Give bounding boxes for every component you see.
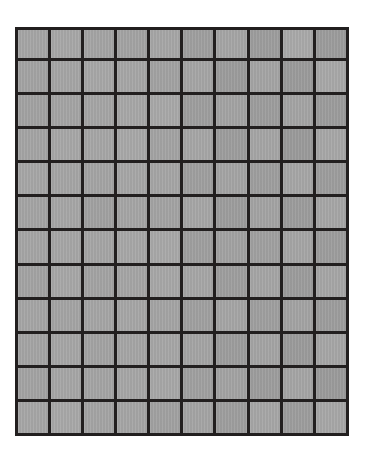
grid-cell: [51, 27, 84, 61]
grid-cell: [250, 197, 283, 231]
grid-cell-fill: [316, 231, 346, 262]
grid-cell: [117, 163, 150, 197]
grid-cell: [183, 61, 216, 95]
grid-row: [15, 368, 349, 402]
grid-cell-fill: [183, 30, 213, 58]
grid-cell: [216, 266, 249, 300]
grid-cell: [150, 197, 183, 231]
grid-cell: [283, 402, 316, 436]
grid-cell: [216, 368, 249, 402]
grid-cell-fill: [283, 402, 313, 433]
grid-cell-fill: [84, 129, 114, 160]
grid-row: [15, 95, 349, 129]
grid-cell: [250, 402, 283, 436]
grid-cell: [216, 334, 249, 368]
grid-cell-fill: [150, 334, 180, 365]
grid-cell: [183, 266, 216, 300]
grid-cell: [216, 163, 249, 197]
grid-cell-fill: [150, 95, 180, 126]
grid-cell: [183, 27, 216, 61]
grid-cell-fill: [283, 300, 313, 331]
grid-cell-fill: [117, 129, 147, 160]
grid-cell: [250, 368, 283, 402]
grid-row: [15, 163, 349, 197]
grid-cell-fill: [183, 129, 213, 160]
grid-cell: [250, 27, 283, 61]
grid-cell: [51, 266, 84, 300]
grid-cell-fill: [183, 368, 213, 399]
grid-cell: [216, 197, 249, 231]
grid-cell: [84, 368, 117, 402]
grid-cell: [150, 95, 183, 129]
grid-cell: [150, 402, 183, 436]
grid-cell: [150, 27, 183, 61]
grid-cell: [84, 163, 117, 197]
grid-cell: [84, 95, 117, 129]
grid-row: [15, 129, 349, 163]
grid-cell-fill: [18, 368, 48, 399]
grid-cell-fill: [18, 402, 48, 433]
grid-cell-fill: [150, 197, 180, 228]
grid-cell: [150, 334, 183, 368]
gray-square-grid: [15, 27, 349, 436]
grid-cell: [51, 334, 84, 368]
grid-cell-fill: [150, 402, 180, 433]
grid-cell: [250, 129, 283, 163]
grid-cell-fill: [216, 334, 246, 365]
grid-cell: [250, 163, 283, 197]
grid-cell: [250, 231, 283, 265]
grid-cell-fill: [316, 266, 346, 297]
grid-cell: [117, 266, 150, 300]
grid-cell-fill: [84, 163, 114, 194]
grid-cell-fill: [183, 300, 213, 331]
grid-cell-fill: [216, 231, 246, 262]
grid-cell-fill: [316, 95, 346, 126]
grid-cell-fill: [216, 95, 246, 126]
grid-cell-fill: [18, 334, 48, 365]
grid-cell: [84, 197, 117, 231]
grid-cell-fill: [250, 163, 280, 194]
grid-cell: [117, 197, 150, 231]
grid-cell: [316, 95, 349, 129]
grid-cell: [250, 334, 283, 368]
grid-cell: [283, 95, 316, 129]
grid-cell: [15, 129, 51, 163]
grid-cell: [51, 95, 84, 129]
grid-cell-fill: [283, 266, 313, 297]
grid-cell-fill: [117, 61, 147, 92]
grid-cell-fill: [51, 129, 81, 160]
grid-cell-fill: [316, 300, 346, 331]
grid-cell-fill: [250, 231, 280, 262]
grid-row: [15, 231, 349, 265]
grid-cell: [316, 27, 349, 61]
grid-cell-fill: [316, 30, 346, 58]
grid-cell: [216, 27, 249, 61]
grid-cell: [183, 334, 216, 368]
grid-cell-fill: [250, 266, 280, 297]
grid-cell: [283, 266, 316, 300]
grid-cell: [150, 129, 183, 163]
grid-cell-fill: [51, 163, 81, 194]
grid-cell-fill: [216, 129, 246, 160]
grid-cell-fill: [250, 129, 280, 160]
grid-row: [15, 27, 349, 61]
grid-cell: [117, 129, 150, 163]
grid-cell: [84, 61, 117, 95]
grid-cell-fill: [250, 95, 280, 126]
grid-row: [15, 402, 349, 436]
grid-cell-fill: [51, 61, 81, 92]
grid-cell: [283, 300, 316, 334]
grid-cell-fill: [117, 95, 147, 126]
grid-cell-fill: [117, 368, 147, 399]
grid-cell-fill: [84, 231, 114, 262]
grid-cell: [316, 61, 349, 95]
grid-cell-fill: [250, 368, 280, 399]
grid-cell: [117, 231, 150, 265]
grid-cell-fill: [117, 266, 147, 297]
grid-cell: [216, 300, 249, 334]
grid-cell-fill: [18, 163, 48, 194]
grid-cell-fill: [283, 61, 313, 92]
grid-cell-fill: [18, 129, 48, 160]
grid-cell: [183, 95, 216, 129]
grid-cell-fill: [216, 163, 246, 194]
